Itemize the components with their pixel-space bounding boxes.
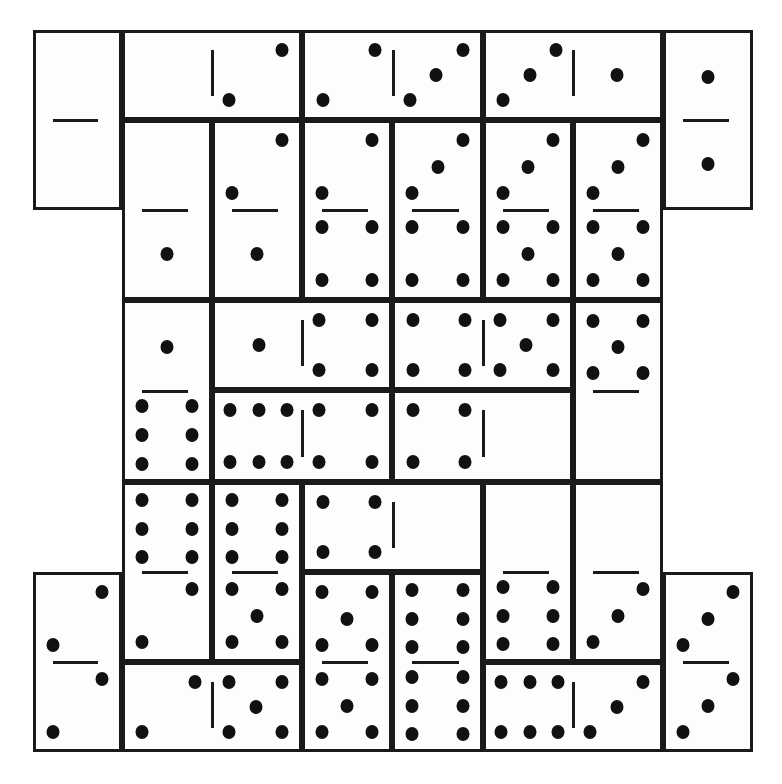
- pip: [586, 366, 599, 380]
- domino-d11[interactable]: [573, 120, 663, 300]
- pip: [281, 403, 294, 417]
- pip: [406, 583, 419, 597]
- pip: [406, 727, 419, 741]
- domino-d24[interactable]: [302, 572, 392, 752]
- domino-d8[interactable]: [302, 120, 392, 300]
- pip: [135, 522, 148, 536]
- domino-divider: [392, 502, 395, 548]
- pip: [430, 68, 443, 82]
- domino-d23[interactable]: [33, 572, 122, 752]
- pip: [366, 220, 379, 234]
- pip: [727, 585, 740, 599]
- pip: [223, 675, 236, 689]
- pip: [612, 340, 625, 354]
- pip: [547, 273, 560, 287]
- domino-divider: [53, 661, 99, 664]
- pip: [365, 313, 378, 327]
- pip: [186, 493, 199, 507]
- pip: [457, 273, 470, 287]
- pip: [225, 635, 238, 649]
- pip: [547, 580, 560, 594]
- pip: [369, 545, 382, 559]
- domino-divider: [142, 209, 188, 212]
- pip: [225, 186, 238, 200]
- pip: [252, 403, 265, 417]
- domino-divider: [683, 661, 729, 664]
- domino-d27[interactable]: [122, 662, 302, 752]
- pip: [552, 675, 565, 689]
- pip: [457, 670, 470, 684]
- domino-divider: [593, 571, 639, 574]
- domino-d12[interactable]: [122, 300, 212, 482]
- domino-d9[interactable]: [392, 120, 483, 300]
- domino-d1[interactable]: [33, 30, 122, 210]
- pip: [637, 314, 650, 328]
- pip: [316, 495, 329, 509]
- pip: [494, 675, 507, 689]
- domino-d21[interactable]: [483, 482, 573, 662]
- domino-d3[interactable]: [302, 30, 483, 120]
- pip: [549, 43, 562, 57]
- domino-d17[interactable]: [392, 390, 573, 482]
- pip: [46, 638, 59, 652]
- domino-divider: [412, 661, 459, 664]
- domino-d4[interactable]: [483, 30, 663, 120]
- pip: [249, 700, 262, 714]
- pip: [366, 273, 379, 287]
- domino-d18[interactable]: [122, 482, 212, 662]
- pip: [584, 725, 597, 739]
- pip: [313, 363, 326, 377]
- domino-divider: [392, 50, 395, 96]
- domino-d22[interactable]: [573, 482, 663, 662]
- pip: [457, 727, 470, 741]
- pip: [223, 455, 236, 469]
- domino-divider: [211, 682, 214, 728]
- pip: [281, 455, 294, 469]
- pip: [457, 612, 470, 626]
- domino-d7[interactable]: [212, 120, 302, 300]
- pip: [406, 220, 419, 234]
- pip: [186, 428, 199, 442]
- domino-divider: [482, 410, 485, 457]
- domino-d25[interactable]: [392, 572, 483, 752]
- pip: [457, 699, 470, 713]
- pip: [366, 725, 379, 739]
- domino-d20[interactable]: [302, 482, 483, 572]
- pip: [186, 399, 199, 413]
- domino-divider: [301, 320, 304, 366]
- pip: [135, 457, 148, 471]
- domino-d26[interactable]: [663, 572, 753, 752]
- pip: [275, 725, 288, 739]
- domino-d15[interactable]: [573, 300, 663, 482]
- pip: [341, 699, 354, 713]
- domino-d28[interactable]: [483, 662, 663, 752]
- pip: [637, 273, 650, 287]
- domino-d14[interactable]: [392, 300, 573, 390]
- pip: [636, 675, 649, 689]
- pip: [366, 672, 379, 686]
- domino-d2[interactable]: [122, 30, 302, 120]
- pip: [547, 133, 560, 147]
- domino-d13[interactable]: [212, 300, 392, 390]
- pip: [276, 493, 289, 507]
- pip: [161, 247, 174, 261]
- pip: [586, 273, 599, 287]
- domino-d16[interactable]: [212, 390, 392, 482]
- pip: [225, 493, 238, 507]
- pip: [316, 93, 329, 107]
- pip: [637, 582, 650, 596]
- pip: [315, 585, 328, 599]
- pip: [188, 675, 201, 689]
- pip: [275, 675, 288, 689]
- pip: [365, 363, 378, 377]
- domino-d6[interactable]: [122, 120, 212, 300]
- domino-divider: [412, 209, 459, 212]
- pip: [459, 313, 472, 327]
- domino-d19[interactable]: [212, 482, 302, 662]
- pip: [136, 725, 149, 739]
- domino-d10[interactable]: [483, 120, 573, 300]
- domino-d5[interactable]: [663, 30, 753, 210]
- domino-divider: [232, 209, 278, 212]
- pip: [497, 93, 510, 107]
- pip: [46, 725, 59, 739]
